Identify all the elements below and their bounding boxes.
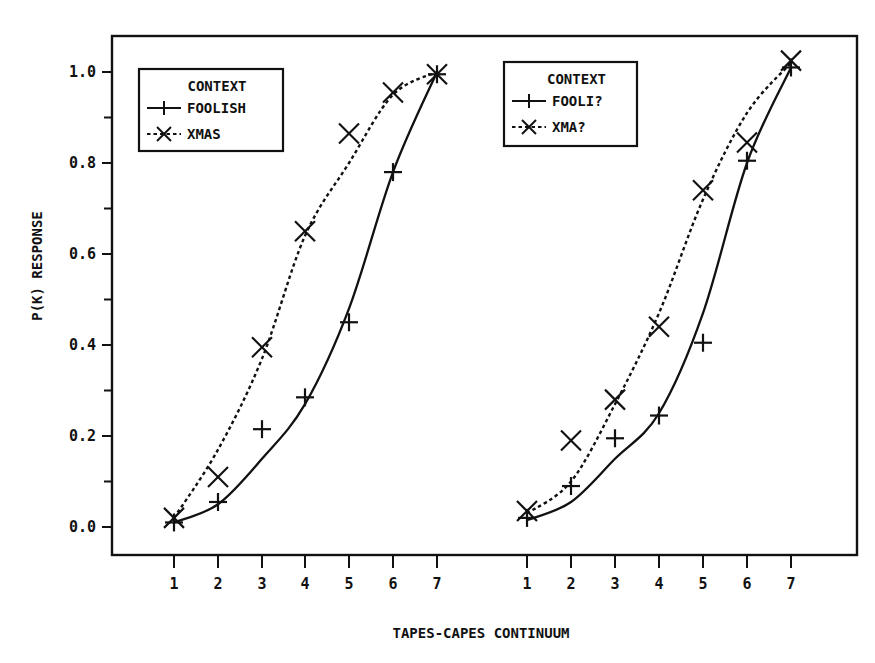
x-tick-label: 3 [257,575,266,593]
y-tick-label: 0.4 [69,336,96,354]
legend-entry-label: FOOLISH [187,100,246,116]
x-tick-label: 5 [344,575,353,593]
x-tick-label: 7 [432,575,441,593]
plus-marker-icon [253,420,271,438]
legends: CONTEXTFOOLISHXMASCONTEXTFOOLI?XMA? [139,62,637,151]
x-marker-icon [693,180,713,200]
legend-entry-label: FOOLI? [552,93,603,109]
x-marker-icon [252,337,272,357]
x-tick-label: 4 [654,575,663,593]
y-tick-label: 0.6 [69,245,96,263]
x-marker-icon [383,82,403,102]
y-axis: 0.00.20.40.60.81.0 [69,63,112,536]
x-tick-label: 6 [388,575,397,593]
y-axis-title: P(K) RESPONSE [29,211,45,321]
x-marker-icon [561,431,581,451]
legend-title: CONTEXT [547,71,606,87]
x-axis: 12345671234567 [169,555,795,593]
x-tick-label: 2 [566,575,575,593]
plus-marker-icon [606,429,624,447]
legend-left: CONTEXTFOOLISHXMAS [139,69,283,151]
x-tick-label: 6 [742,575,751,593]
y-tick-label: 0.2 [69,427,96,445]
chart-figure: 0.00.20.40.60.81.0 12345671234567 CONTEX… [0,0,875,663]
x-marker-icon [208,467,228,487]
y-tick-label: 0.8 [69,154,96,172]
x-marker-icon [339,123,359,143]
x-tick-label: 2 [213,575,222,593]
y-tick-label: 1.0 [69,63,96,81]
x-tick-label: 4 [300,575,309,593]
legend-entry-label: XMAS [187,126,221,142]
legend-entry-label: XMA? [552,119,586,135]
y-tick-label: 0.0 [69,518,96,536]
x-marker-icon [295,221,315,241]
plus-marker-icon [738,152,756,170]
x-tick-label: 1 [169,575,178,593]
x-tick-label: 5 [698,575,707,593]
plus-marker-icon [384,163,402,181]
x-tick-label: 1 [522,575,531,593]
x-tick-label: 3 [610,575,619,593]
x-tick-label: 7 [786,575,795,593]
x-axis-title: TAPES-CAPES CONTINUUM [392,625,569,641]
plus-marker-icon [165,513,183,531]
x-marker-icon [605,390,625,410]
plus-marker-icon [694,334,712,352]
legend-title: CONTEXT [187,78,246,94]
legend-right: CONTEXTFOOLI?XMA? [504,62,637,146]
plus-marker-icon [562,477,580,495]
plus-marker-icon [340,313,358,331]
